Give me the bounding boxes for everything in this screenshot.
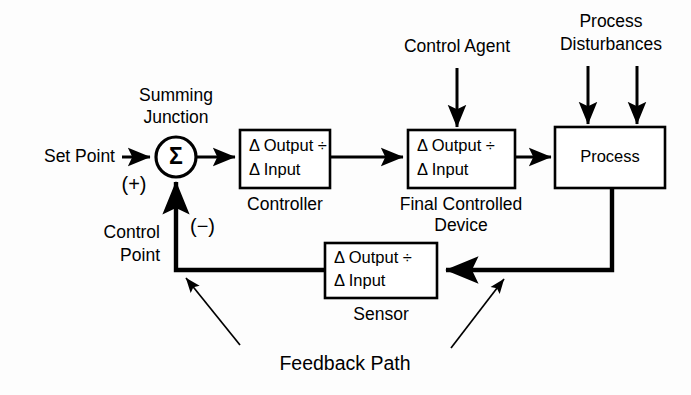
fcd-box-line1: Δ Output ÷	[417, 136, 495, 154]
process-box-label: Process	[580, 147, 640, 165]
sensor-caption: Sensor	[353, 304, 409, 324]
feedback-path-label: Feedback Path	[279, 352, 410, 374]
control-point-label-line2: Point	[120, 245, 160, 265]
control-agent-label: Control Agent	[404, 36, 510, 56]
diagram-canvas: Summing Junction Σ Set Point (+) Δ Outpu…	[0, 0, 691, 395]
process-disturbances-label-line2: Disturbances	[560, 34, 662, 54]
process-disturbances-label-line1: Process	[579, 11, 642, 31]
sigma-symbol: Σ	[169, 143, 183, 169]
set-point-group: Set Point (+)	[44, 146, 150, 196]
set-point-label: Set Point	[44, 146, 115, 166]
controller-box-line2: Δ Input	[249, 160, 301, 178]
feedback-path-pointer-left	[186, 278, 240, 345]
fcd-caption-line2: Device	[434, 215, 488, 235]
sensor-box-line1: Δ Output ÷	[334, 248, 412, 266]
summing-junction-group: Summing Junction Σ	[139, 85, 213, 177]
minus-sign-label: (−)	[190, 215, 215, 237]
sensor-box-line2: Δ Input	[334, 271, 386, 289]
control-loop-diagram: Summing Junction Σ Set Point (+) Δ Outpu…	[0, 0, 691, 395]
controller-box-line1: Δ Output ÷	[249, 136, 327, 154]
controller-block-group: Δ Output ÷ Δ Input Controller	[196, 130, 330, 214]
summing-junction-label-line2: Junction	[143, 107, 208, 127]
feedback-path-pointer-right	[451, 279, 504, 348]
sensor-block-group: Δ Output ÷ Δ Input Sensor	[325, 243, 437, 324]
process-disturbances-group: Process Disturbances	[560, 11, 662, 124]
summing-junction-label-line1: Summing	[139, 85, 213, 105]
controller-caption: Controller	[247, 194, 323, 214]
control-agent-group: Control Agent	[404, 36, 510, 127]
plus-sign-label: (+)	[122, 173, 147, 195]
process-block-group: Process	[515, 127, 665, 188]
fcd-caption-line1: Final Controlled	[400, 194, 523, 214]
final-controlled-device-group: Δ Output ÷ Δ Input Final Controlled Devi…	[330, 130, 522, 235]
control-point-group: Control Point (−)	[104, 215, 215, 264]
fcd-box-line2: Δ Input	[417, 160, 469, 178]
control-point-label-line1: Control	[104, 222, 160, 242]
